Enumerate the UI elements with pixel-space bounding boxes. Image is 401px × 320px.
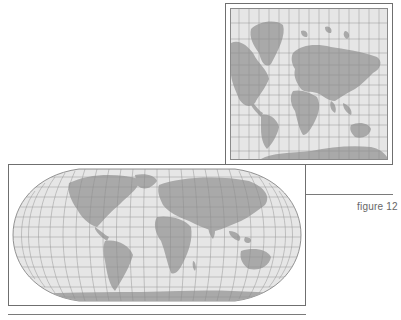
bottom-rule [8, 314, 306, 315]
figure-caption: figure 12 [357, 201, 398, 212]
mercator-map-frame [225, 3, 393, 165]
robinson-map [9, 165, 305, 305]
mercator-map-graphic [231, 9, 388, 160]
mercator-map [230, 8, 388, 160]
top-map-rule [305, 194, 393, 195]
robinson-map-frame [8, 164, 306, 306]
